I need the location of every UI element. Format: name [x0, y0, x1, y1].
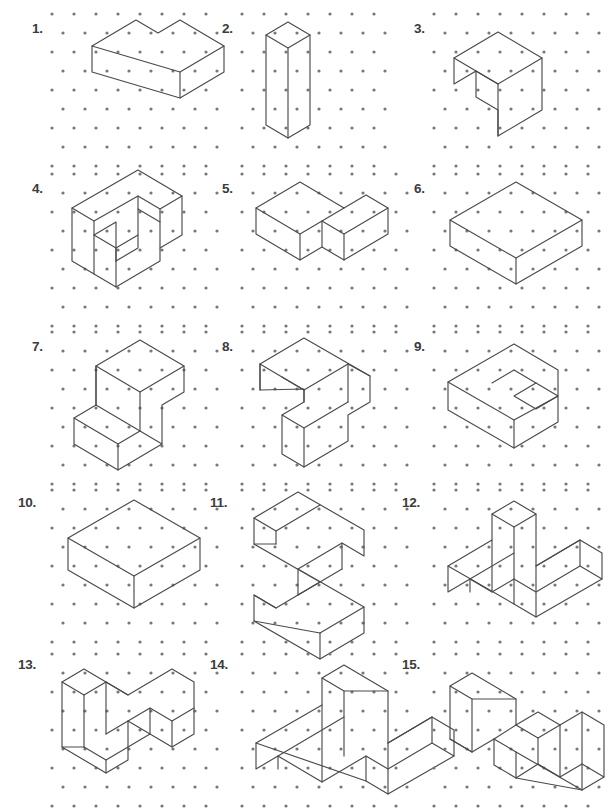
grid-dot [553, 267, 556, 270]
grid-dot [94, 728, 97, 731]
grid-dot [487, 425, 490, 428]
grid-dot [83, 425, 86, 428]
grid-dot [193, 191, 196, 194]
grid-dot [443, 191, 446, 194]
grid-dot [328, 126, 331, 129]
grid-dot [160, 766, 163, 769]
grid-dot [542, 330, 545, 333]
grid-dot [127, 31, 130, 34]
grid-dot [564, 652, 567, 655]
grid-dot [149, 671, 152, 674]
grid-dot [575, 463, 578, 466]
grid-dot [72, 690, 75, 693]
grid-dot [509, 785, 512, 788]
figure-edges [266, 22, 310, 138]
grid-dot [383, 785, 386, 788]
grid-dot [443, 425, 446, 428]
grid-dot [83, 145, 86, 148]
grid-dot [182, 728, 185, 731]
grid-dot [61, 387, 64, 390]
grid-dot [350, 12, 353, 15]
grid-dot [72, 50, 75, 53]
grid-dot [215, 31, 218, 34]
grid-dot [520, 50, 523, 53]
grid-dot [251, 349, 254, 352]
grid-dot [251, 107, 254, 110]
grid-dot [487, 671, 490, 674]
grid-dot [553, 583, 556, 586]
grid-dot [94, 526, 97, 529]
grid-dot [498, 126, 501, 129]
grid-dot [350, 728, 353, 731]
edge-path [516, 764, 538, 778]
grid-dot [262, 88, 265, 91]
grid-dot [542, 652, 545, 655]
grid-dot [564, 330, 567, 333]
grid-dot [138, 50, 141, 53]
grid-dot [182, 248, 185, 251]
edge-path [254, 595, 276, 608]
grid-dot [149, 387, 152, 390]
grid-dot [127, 709, 130, 712]
grid-dot [193, 507, 196, 510]
grid-dot [328, 50, 331, 53]
grid-dot [262, 640, 265, 643]
grid-dot [127, 671, 130, 674]
grid-dot [262, 652, 265, 655]
grid-dot [383, 425, 386, 428]
grid-dot [94, 210, 97, 213]
grid-dot [251, 31, 254, 34]
figure-number-label: 6. [414, 182, 425, 196]
grid-dot [105, 387, 108, 390]
grid-dot [273, 425, 276, 428]
grid-dot [215, 145, 218, 148]
grid-dot [251, 785, 254, 788]
figure-number-label: 8. [222, 340, 233, 354]
grid-dot [531, 229, 534, 232]
grid-dot [520, 526, 523, 529]
grid-dot [204, 12, 207, 15]
figure-number-label: 15. [402, 658, 420, 672]
grid-dot [498, 804, 501, 807]
grid-dot [597, 545, 600, 548]
grid-dot [575, 709, 578, 712]
grid-dot [339, 31, 342, 34]
grid-dot [509, 387, 512, 390]
grid-dot [50, 126, 53, 129]
grid-dot [240, 12, 243, 15]
grid-dot [72, 602, 75, 605]
grid-dot [498, 88, 501, 91]
grid-dot [443, 267, 446, 270]
grid-dot [564, 172, 567, 175]
grid-dot [443, 107, 446, 110]
grid-dot [553, 191, 556, 194]
grid-dot [83, 621, 86, 624]
grid-dot [105, 107, 108, 110]
grid-dot [564, 564, 567, 567]
grid-dot [465, 583, 468, 586]
grid-dot [383, 545, 386, 548]
grid-dot [94, 488, 97, 491]
grid-dot [127, 349, 130, 352]
grid-dot [350, 766, 353, 769]
grid-dot [160, 126, 163, 129]
grid-dot [328, 368, 331, 371]
grid-dot [509, 305, 512, 308]
grid-dot [476, 564, 479, 567]
grid-dot [405, 349, 408, 352]
dot-lattice [50, 330, 218, 485]
grid-dot [432, 488, 435, 491]
grid-dot [240, 564, 243, 567]
grid-dot [553, 463, 556, 466]
grid-dot [454, 602, 457, 605]
grid-dot [171, 425, 174, 428]
grid-dot [182, 640, 185, 643]
grid-dot [295, 31, 298, 34]
edge-path [514, 370, 536, 383]
grid-dot [262, 728, 265, 731]
dot-lattice [50, 488, 218, 643]
grid-dot [487, 107, 490, 110]
grid-dot [586, 286, 589, 289]
grid-dot [306, 248, 309, 251]
grid-dot [116, 248, 119, 251]
